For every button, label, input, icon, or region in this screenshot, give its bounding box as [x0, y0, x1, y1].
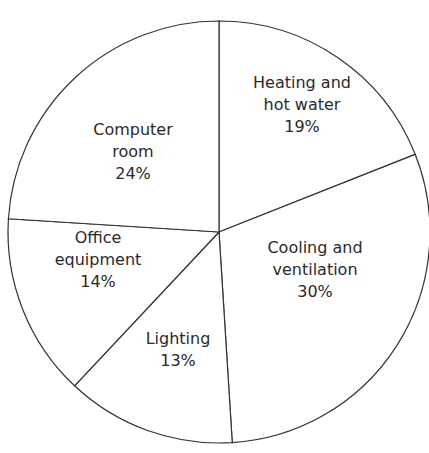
- pie-slices: [8, 21, 429, 443]
- pie-chart: Heating andhot water19%Cooling andventil…: [0, 0, 429, 453]
